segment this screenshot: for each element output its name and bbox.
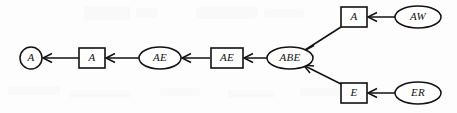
edge-a-square-to-a-circle [43,54,79,63]
node-a-circle-label: A [26,51,34,63]
diagram-canvas: A A AE AE ABE A AW [0,0,457,113]
node-a-square-label: A [87,51,95,63]
node-abe-ellipse[interactable]: ABE [267,47,313,69]
node-a-square[interactable]: A [79,48,105,68]
graph-svg: A A AE AE ABE A AW [0,0,457,113]
node-er-ellipse-label: ER [410,86,425,98]
node-ae-square[interactable]: AE [211,48,243,68]
node-a-circle[interactable]: A [20,47,42,69]
edge-abe-to-ae-square [244,54,267,63]
node-aw-ellipse-label: AW [409,10,427,22]
edge-ae-ellipse-to-a-square [106,54,139,63]
node-e-square-label: E [349,86,357,98]
edge-e-square-to-abe [304,65,342,84]
node-a-square-top-label: A [349,10,357,22]
node-aw-ellipse[interactable]: AW [395,6,441,28]
edge-ae-square-to-ae-ellipse [182,54,210,63]
node-ae-ellipse-label: AE [152,51,167,63]
node-abe-ellipse-label: ABE [278,51,300,63]
node-ae-square-label: AE [219,51,234,63]
edge-er-to-e-square [368,89,395,98]
edge-aw-to-a-square-top [368,13,395,22]
node-e-square[interactable]: E [341,83,367,103]
node-ae-ellipse[interactable]: AE [139,47,181,69]
node-a-square-top[interactable]: A [341,7,367,27]
node-er-ellipse[interactable]: ER [395,82,441,104]
